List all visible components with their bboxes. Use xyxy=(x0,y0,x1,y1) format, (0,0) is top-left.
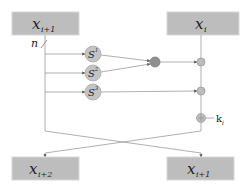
sbox2-to-combine xyxy=(101,64,150,72)
box-top-right: x i xyxy=(167,12,239,35)
xor-node-1 xyxy=(197,58,205,66)
box-bottom-left: x i+2 xyxy=(12,157,79,180)
svg-text:S: S xyxy=(88,68,95,79)
combine-node xyxy=(150,57,160,67)
key-label: k i xyxy=(216,113,224,126)
svg-text:3: 3 xyxy=(95,85,98,91)
box-top-right-base: x xyxy=(195,15,204,33)
svg-text:S: S xyxy=(88,87,95,98)
xor-node-2 xyxy=(197,87,205,95)
box-top-right-sub: i xyxy=(204,25,207,34)
box-bottom-right-base: x xyxy=(187,160,196,178)
sbox1-to-combine xyxy=(101,55,150,61)
svg-text:1: 1 xyxy=(95,47,98,53)
sbox-1: S 1 xyxy=(85,46,101,62)
box-top-left-base: x xyxy=(32,15,41,33)
width-slash xyxy=(41,40,47,48)
svg-text:2: 2 xyxy=(94,66,98,72)
box-bottom-left-sub: i+2 xyxy=(38,170,52,179)
sbox3-to-xor-2 xyxy=(101,91,197,92)
box-top-left: x i+1 xyxy=(12,12,79,35)
sbox-2: S 2 xyxy=(85,65,101,81)
box-bottom-left-base: x xyxy=(29,160,38,178)
box-bottom-right-sub: i+1 xyxy=(196,170,210,179)
sbox-3: S 3 xyxy=(85,84,101,100)
width-n: n xyxy=(31,37,38,50)
svg-text:S: S xyxy=(88,49,95,60)
svg-text:i: i xyxy=(222,119,224,126)
box-bottom-right: x i+1 xyxy=(167,157,234,180)
box-top-left-sub: i+1 xyxy=(41,25,55,34)
feistel-diagram: x i+1 x i n S 1 S 2 S 3 xyxy=(0,0,248,191)
